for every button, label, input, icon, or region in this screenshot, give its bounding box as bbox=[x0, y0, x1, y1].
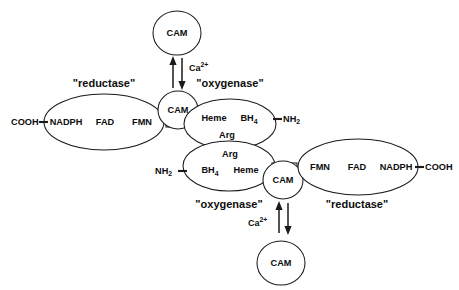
upper-arrow-down-head bbox=[178, 81, 185, 90]
upper-free-cam-node: CAM bbox=[153, 11, 201, 55]
upper-oxygenase-domain-label: "oxygenase" bbox=[196, 77, 263, 89]
upper-reductase-cofactor-fad: FAD bbox=[96, 117, 115, 127]
lower-bh4-base: BH bbox=[201, 165, 215, 175]
lower-association-arrow-down bbox=[284, 203, 291, 235]
lower-association-arrow-up bbox=[275, 201, 282, 233]
upper-calcium-ion-label: Ca2+ bbox=[189, 61, 208, 73]
lower-oxygenase-domain-label: "oxygenase" bbox=[195, 198, 262, 210]
lower-reductase-cofactor-nadph: NADPH bbox=[380, 162, 413, 172]
upper-nh2-base: NH bbox=[283, 114, 297, 124]
lower-reductase-cofactor-fmn: FMN bbox=[310, 162, 330, 172]
lower-oxygenase-domain: Arg BH4 Heme bbox=[183, 141, 275, 191]
upper-bound-cam-label: CAM bbox=[168, 105, 189, 115]
lower-free-cam-node: CAM bbox=[257, 241, 305, 285]
upper-bh4-base: BH bbox=[240, 113, 254, 123]
lower-bh4-subscript: 4 bbox=[215, 169, 219, 176]
lower-oxygenase-cofactor-heme: Heme bbox=[233, 165, 258, 175]
upper-association-arrow-down bbox=[178, 58, 185, 90]
upper-bh4-subscript: 4 bbox=[254, 117, 258, 124]
upper-oxygenase-cofactor-arg: Arg bbox=[219, 130, 235, 140]
lower-reductase-cofactor-fad: FAD bbox=[348, 162, 367, 172]
upper-reductase-cofactor-fmn: FMN bbox=[132, 117, 152, 127]
upper-cooh-terminus-label: COOH bbox=[11, 117, 39, 127]
diagram-canvas: CAM Ca2+ "reductase" "oxygenase" NADPH F… bbox=[0, 0, 459, 290]
lower-arrow-up-head bbox=[275, 201, 282, 210]
lower-free-cam-label: CAM bbox=[271, 258, 292, 268]
upper-reductase-domain: NADPH FAD FMN bbox=[44, 94, 164, 150]
upper-nh2-subscript: 2 bbox=[296, 118, 300, 125]
upper-oxygenase-cofactor-heme: Heme bbox=[201, 113, 226, 123]
upper-free-cam-label: CAM bbox=[167, 28, 188, 38]
lower-bound-cam-label: CAM bbox=[273, 175, 294, 185]
lower-nh2-subscript: 2 bbox=[168, 170, 172, 177]
lower-calcium-ion-superscript: 2+ bbox=[260, 216, 268, 223]
lower-calcium-ion-label: Ca2+ bbox=[248, 216, 267, 228]
upper-reductase-domain-label: "reductase" bbox=[73, 77, 135, 89]
lower-reductase-domain-label: "reductase" bbox=[326, 198, 388, 210]
upper-calcium-ion-superscript: 2+ bbox=[201, 61, 209, 68]
lower-nh2-terminus-label: NH2 bbox=[155, 166, 172, 177]
upper-association-arrow-up bbox=[169, 56, 176, 88]
lower-bound-cam-node: CAM bbox=[263, 161, 303, 199]
nos-dimer-diagram: CAM Ca2+ "reductase" "oxygenase" NADPH F… bbox=[0, 0, 459, 290]
lower-arrow-down-head bbox=[284, 226, 291, 235]
upper-nh2-terminus-label: NH2 bbox=[283, 114, 300, 125]
lower-reductase-domain: FMN FAD NADPH bbox=[298, 139, 418, 195]
lower-cooh-terminus-label: COOH bbox=[425, 162, 453, 172]
lower-nh2-base: NH bbox=[155, 166, 169, 176]
upper-arrow-up-head bbox=[169, 56, 176, 65]
upper-reductase-cofactor-nadph: NADPH bbox=[50, 117, 83, 127]
lower-oxygenase-cofactor-arg: Arg bbox=[222, 149, 238, 159]
